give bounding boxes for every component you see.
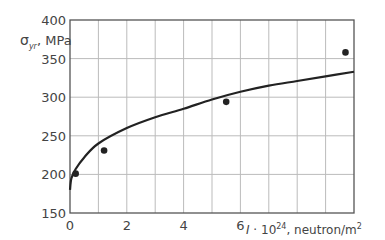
x-label-multiplier: · 10: [250, 223, 277, 237]
x-label-unit-exponent: 2: [357, 222, 362, 231]
x-axis-label: I · 1024, neutron/m2: [246, 222, 362, 237]
x-tick-label: 2: [123, 218, 131, 233]
chart: 150200250300350400 0246 σyr, MPa I · 102…: [0, 0, 385, 240]
data-point: [223, 99, 230, 106]
y-tick-label: 300: [41, 90, 66, 105]
y-tick-label: 350: [41, 52, 66, 67]
x-label-unit: , neutron/m: [286, 223, 356, 237]
x-tick-label: 4: [179, 218, 187, 233]
grid-lines: [70, 20, 354, 213]
x-tick-label: 0: [66, 218, 74, 233]
x-tick-label: 6: [236, 218, 244, 233]
data-point: [342, 49, 349, 56]
y-tick-label: 250: [41, 129, 66, 144]
x-label-exponent: 24: [276, 222, 286, 231]
y-tick-label: 400: [41, 13, 66, 28]
data-point: [72, 170, 79, 177]
data-point: [101, 147, 108, 154]
data-points: [72, 49, 348, 177]
y-axis-label: σyr, MPa: [20, 32, 72, 51]
y-label-unit: , MPa: [37, 33, 72, 48]
x-tick-labels: 0246: [66, 218, 245, 233]
y-tick-label: 200: [41, 167, 66, 182]
y-tick-label: 150: [41, 206, 66, 221]
y-label-symbol: σ: [20, 32, 29, 48]
